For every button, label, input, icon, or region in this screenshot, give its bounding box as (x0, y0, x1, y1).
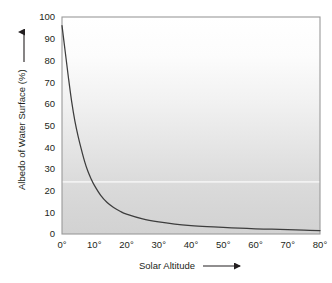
chart-container: 0102030405060708090100 0°10°20°30°40°50°… (0, 0, 332, 283)
x-tick-label: 0° (57, 239, 66, 250)
y-tick-label: 90 (44, 33, 55, 44)
y-tick-label: 40 (44, 142, 55, 153)
x-axis-tick-labels: 0°10°20°30°40°50°60°70°80° (57, 239, 327, 250)
y-axis-title: Albedo of Water Surface (%) (16, 69, 27, 190)
x-tick-label: 80° (313, 239, 328, 250)
albedo-vs-solar-altitude-chart: 0102030405060708090100 0°10°20°30°40°50°… (0, 0, 332, 283)
y-tick-label: 10 (44, 207, 55, 218)
plot-background (62, 17, 320, 234)
x-tick-label: 70° (281, 239, 296, 250)
y-tick-label: 50 (44, 120, 55, 131)
y-axis-tick-labels: 0102030405060708090100 (39, 11, 55, 239)
y-tick-label: 20 (44, 185, 55, 196)
y-tick-label: 30 (44, 163, 55, 174)
y-tick-label: 60 (44, 98, 55, 109)
x-tick-label: 60° (248, 239, 263, 250)
y-tick-label: 80 (44, 55, 55, 66)
x-tick-label: 40° (184, 239, 199, 250)
y-tick-label: 0 (50, 228, 55, 239)
x-axis-title: Solar Altitude (139, 260, 195, 271)
y-tick-label: 70 (44, 77, 55, 88)
x-tick-label: 50° (216, 239, 231, 250)
x-tick-label: 30° (152, 239, 167, 250)
x-tick-label: 20° (119, 239, 134, 250)
y-tick-label: 100 (39, 11, 55, 22)
x-tick-label: 10° (87, 239, 102, 250)
